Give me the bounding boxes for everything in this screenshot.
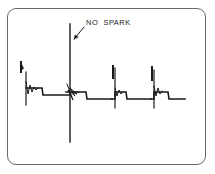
cylinder-2-pattern <box>66 24 112 142</box>
cylinder-4-pattern <box>151 67 185 108</box>
cylinder-3-pattern <box>112 66 151 108</box>
no-spark-label: NO SPARK <box>86 18 131 27</box>
cylinder-1-pattern <box>21 62 70 105</box>
